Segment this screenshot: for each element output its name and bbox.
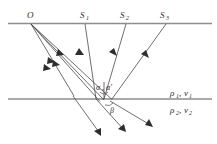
label-layer2-comma: , [179,105,181,115]
label-S3-letter: S [160,10,165,20]
label-geophone-S1: S 1 [80,10,89,21]
refracted-ray-2 [96,99,125,131]
label-rho1: ρ [169,88,175,98]
downgoing-ray-4 [31,24,74,96]
label-S1-subscript: 1 [86,15,89,21]
reflected-ray-to-S1 [85,24,96,99]
downgoing-ray-2 [31,24,104,100]
arrowhead-group-reflected [75,48,149,58]
label-S1-letter: S [80,10,85,20]
refracted-ray-group [73,96,152,135]
arrowhead-down-3 [52,60,60,67]
downgoing-ray-1 [31,24,100,102]
arrowhead-up-S1 [75,48,84,55]
label-S2-letter: S [120,10,125,20]
label-layer1-comma: , [179,88,181,98]
label-alpha: α [96,83,101,92]
label-alpha-comma: , [102,83,104,92]
label-S2-subscript: 2 [126,15,129,21]
label-v1: v [184,88,188,98]
arrowhead-refr-2 [118,124,126,132]
label-source-O: O [27,10,34,20]
arrowhead-up-S2 [109,48,117,56]
label-layer2-properties: ρ 2 , v 2 [169,105,192,116]
refracted-ray-3 [110,101,152,126]
raypath-diagram: O S 1 S 2 S 3 α , α′ β ρ 1 , v 1 ρ 2 , v… [0,0,217,144]
arrowhead-down-1 [56,49,64,56]
label-S3-subscript: 3 [165,15,169,21]
arrowhead-refr-1 [94,128,101,136]
refracted-ray-1 [73,96,101,135]
label-geophone-S3: S 3 [160,10,169,21]
label-alpha-prime: α′ [106,83,112,92]
arrowhead-down-4 [43,64,51,71]
label-v2-subscript: 2 [189,110,192,116]
reflected-ray-to-S3 [112,24,166,99]
label-beta: β [109,106,114,115]
label-geophone-S2: S 2 [120,10,129,21]
label-v1-subscript: 1 [189,93,192,99]
label-rho2: ρ [169,105,175,115]
label-v2: v [184,105,188,115]
arrowhead-group-downgoing [43,49,64,71]
label-layer1-properties: ρ 1 , v 1 [169,88,192,99]
